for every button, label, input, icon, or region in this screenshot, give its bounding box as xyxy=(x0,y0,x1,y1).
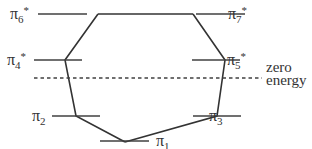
label-pi7: π7* xyxy=(228,4,247,25)
label-pi1: π1 xyxy=(156,132,170,149)
mo-energy-diagram: π6* π7* π4* π5* π2 π3 π1 zero energy xyxy=(0,0,312,149)
label-pi3: π3 xyxy=(209,107,223,127)
label-pi5: π5* xyxy=(227,50,246,71)
label-pi2: π2 xyxy=(32,107,46,127)
energy-label: energy xyxy=(266,72,307,88)
label-pi4: π4* xyxy=(7,50,26,71)
label-pi6: π6* xyxy=(10,4,29,25)
